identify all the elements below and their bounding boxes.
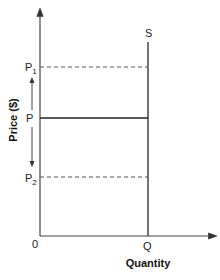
y-axis-title: Price ($) xyxy=(7,98,19,142)
label-p2: P2 xyxy=(25,172,37,187)
supply-diagram: S P1 P P2 0 Q Quantity Price ($) xyxy=(0,0,220,280)
supply-label: S xyxy=(145,27,152,39)
label-p1: P1 xyxy=(25,61,37,76)
origin-label: 0 xyxy=(32,238,38,250)
x-axis-title: Quantity xyxy=(126,257,171,269)
quantity-q-label: Q xyxy=(143,240,152,252)
label-p: P xyxy=(26,112,33,124)
